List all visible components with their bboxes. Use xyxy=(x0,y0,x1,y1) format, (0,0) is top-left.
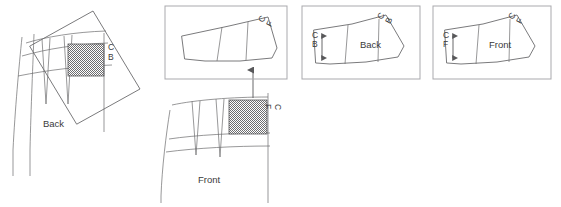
label-piece-front-source: Front xyxy=(198,174,221,185)
label-cb-b-final: B xyxy=(312,39,318,49)
label-cf-f-source: F xyxy=(263,104,273,109)
label-cf-c-source: C xyxy=(273,104,283,110)
figure-canvas: C B Back C F Front xyxy=(0,0,561,207)
label-piece-back-source: Back xyxy=(43,118,64,129)
label-piece-back-final: Back xyxy=(360,39,381,50)
shaded-block-back xyxy=(68,44,104,76)
label-cb-b: B xyxy=(108,52,114,62)
label-cb-c: C xyxy=(108,42,114,52)
pattern-drafting-figure: C B Back C F Front xyxy=(0,0,561,207)
label-cf-f-final: F xyxy=(443,39,448,49)
shaded-block-front xyxy=(229,100,267,134)
label-piece-front-final: Front xyxy=(489,39,512,50)
